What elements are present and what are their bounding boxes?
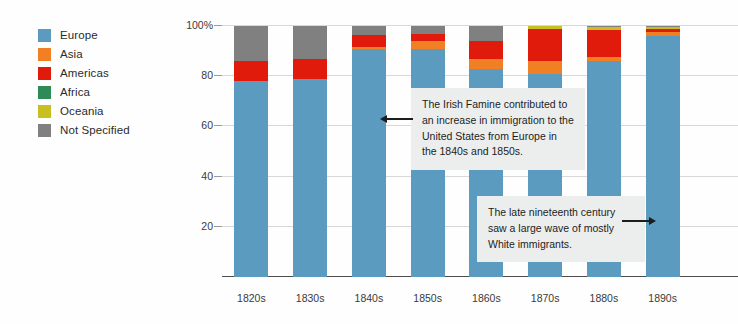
y-axis-tick-label: 80 — [201, 69, 213, 81]
y-axis-tick-mark — [214, 125, 222, 126]
arrow-shaft — [387, 118, 413, 119]
bar-column[interactable]: 1830s — [281, 26, 340, 277]
annotation-callout: The Irish Famine contributed to an incre… — [411, 88, 585, 170]
legend-item[interactable]: Not Specified — [38, 121, 188, 140]
bar-segment[interactable] — [234, 81, 268, 277]
chart-page: EuropeAsiaAmericasAfricaOceaniaNot Speci… — [0, 0, 738, 324]
bar-segment[interactable] — [293, 59, 327, 79]
bar-segment[interactable] — [352, 26, 386, 35]
stacked-bar[interactable] — [234, 26, 268, 277]
legend-label: Americas — [60, 68, 109, 80]
legend-label: Europe — [60, 30, 98, 42]
legend-swatch — [38, 124, 51, 137]
stacked-bar[interactable] — [646, 26, 680, 277]
legend-label: Africa — [60, 87, 90, 99]
legend-item[interactable]: Africa — [38, 83, 188, 102]
annotation-arrow-left — [380, 114, 413, 124]
x-axis-tick-label: 1840s — [355, 292, 384, 304]
x-axis-tick-label: 1870s — [531, 292, 560, 304]
legend-swatch — [38, 86, 51, 99]
y-axis-tick-label: 20 — [201, 220, 213, 232]
bar-segment[interactable] — [528, 29, 562, 62]
x-axis-tick-label: 1880s — [590, 292, 619, 304]
x-axis-tick-label: 1890s — [648, 292, 677, 304]
y-axis-tick-label: 100% — [186, 19, 213, 31]
legend-item[interactable]: Europe — [38, 26, 188, 45]
bar-segment[interactable] — [469, 41, 503, 59]
legend-item[interactable]: Asia — [38, 45, 188, 64]
bar-segment[interactable] — [411, 26, 445, 34]
y-axis-tick-mark — [214, 226, 222, 227]
y-axis-tick-mark — [214, 75, 222, 76]
bar-segment[interactable] — [587, 30, 621, 58]
bar-segment[interactable] — [352, 35, 386, 48]
legend-label: Not Specified — [60, 125, 130, 137]
x-axis-tick-label: 1820s — [237, 292, 266, 304]
bar-segment[interactable] — [528, 61, 562, 74]
arrowhead-left-icon — [380, 115, 387, 123]
bar-segment[interactable] — [411, 41, 445, 49]
legend-label: Oceania — [60, 106, 104, 118]
bar-segment[interactable] — [469, 26, 503, 41]
annotation-arrow-right — [622, 216, 656, 226]
bar-segment[interactable] — [646, 36, 680, 277]
x-axis-tick-label: 1860s — [472, 292, 501, 304]
arrowhead-right-icon — [649, 217, 656, 225]
annotation-callout: The late nineteenth century saw a large … — [477, 196, 645, 262]
bar-segment[interactable] — [352, 49, 386, 277]
legend-swatch — [38, 29, 51, 42]
y-axis-tick-mark — [214, 25, 222, 26]
bar-segment[interactable] — [234, 26, 268, 61]
legend-item[interactable]: Oceania — [38, 102, 188, 121]
legend-item[interactable]: Americas — [38, 64, 188, 83]
legend-swatch — [38, 48, 51, 61]
bar-segment[interactable] — [293, 79, 327, 277]
bar-segment[interactable] — [293, 26, 327, 59]
y-axis-tick-label: 40 — [201, 170, 213, 182]
legend-swatch — [38, 105, 51, 118]
bar-segment[interactable] — [411, 34, 445, 42]
legend-label: Asia — [60, 49, 83, 61]
bar-column[interactable]: 1820s — [222, 26, 281, 277]
chart-legend: EuropeAsiaAmericasAfricaOceaniaNot Speci… — [38, 26, 188, 140]
y-axis-tick-label: 60 — [201, 119, 213, 131]
stacked-bar[interactable] — [293, 26, 327, 277]
bar-segment[interactable] — [469, 59, 503, 69]
bar-column[interactable]: 1840s — [340, 26, 399, 277]
legend-swatch — [38, 67, 51, 80]
x-axis-tick-label: 1850s — [413, 292, 442, 304]
arrow-shaft — [622, 220, 649, 221]
stacked-bar[interactable] — [352, 26, 386, 277]
x-axis-tick-label: 1830s — [296, 292, 325, 304]
bar-segment[interactable] — [234, 61, 268, 81]
y-axis-tick-mark — [214, 176, 222, 177]
